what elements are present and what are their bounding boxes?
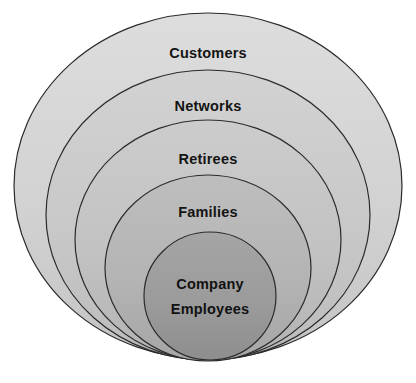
onion-diagram-canvas: Customers Networks Retirees Families Com… — [0, 0, 416, 383]
ring-company-employees-label-line1: Company — [176, 276, 243, 292]
ring-company-employees-shape — [144, 232, 276, 360]
ring-families-label: Families — [178, 204, 238, 220]
ring-company-employees-label-line2: Employees — [171, 301, 249, 317]
ring-networks-label: Networks — [175, 98, 242, 114]
ring-company-employees[interactable]: Company Employees — [144, 232, 276, 360]
nested-circles-diagram: Customers Networks Retirees Families Com… — [0, 0, 416, 383]
ring-retirees-label: Retirees — [179, 151, 238, 167]
ring-customers-label: Customers — [169, 45, 247, 61]
